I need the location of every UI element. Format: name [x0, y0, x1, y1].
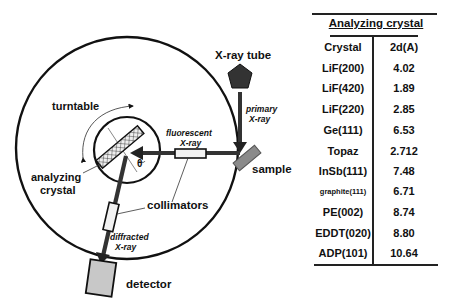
row-2-crystal: LiF(220) — [316, 103, 370, 115]
xray-tube — [228, 64, 252, 88]
row-0-crystal: LiF(200) — [316, 62, 370, 74]
row-8-2d: 8.80 — [378, 227, 430, 239]
row-9-2d: 10.64 — [378, 247, 430, 259]
collimator-diffracted — [103, 202, 119, 232]
collimator-leader-2 — [117, 208, 145, 214]
row-8-crystal: EDDT(020) — [314, 227, 372, 239]
row-5-crystal: InSb(111) — [316, 165, 370, 177]
row-9-crystal: ADP(101) — [316, 247, 370, 259]
row-7-2d: 8.74 — [378, 206, 430, 218]
diffracted-xray-label-2: X-ray — [114, 242, 138, 252]
theta-label: θ — [137, 158, 142, 169]
column-header-crystal: Crystal — [316, 41, 370, 53]
fluorescent-xray-label-2: X-ray — [179, 138, 203, 148]
table-top-rule — [312, 13, 437, 15]
table-column-divider — [372, 36, 374, 265]
xrf-spectrometer-diagram: θ X-ray tube primary X-ray turntable flu… — [0, 0, 300, 304]
row-3-crystal: Ge(111) — [316, 124, 370, 136]
row-4-crystal: Topaz — [316, 145, 370, 157]
row-6-crystal: graphite(111) — [316, 187, 370, 196]
collimator-fluorescent — [175, 149, 206, 158]
xray-tube-label: X-ray tube — [215, 49, 271, 61]
detector — [86, 259, 116, 296]
row-2-2d: 2.85 — [378, 103, 430, 115]
row-3-2d: 6.53 — [378, 124, 430, 136]
diffracted-xray-label-1: diffracted — [110, 232, 149, 242]
fluorescent-xray-label-1: fluorescent — [166, 128, 213, 138]
row-0-2d: 4.02 — [378, 62, 430, 74]
analyzing-crystal-label-1: analyzing — [31, 171, 81, 183]
table-bottom-rule — [314, 264, 438, 266]
row-4-2d: 2.712 — [378, 145, 430, 157]
table-header-rule — [330, 35, 418, 37]
sample-label: sample — [252, 163, 292, 175]
analyzing-crystal-label-2: crystal — [40, 184, 75, 196]
row-5-2d: 7.48 — [378, 165, 430, 177]
collimators-label: collimators — [147, 199, 208, 211]
row-1-crystal: LiF(420) — [316, 82, 370, 94]
turntable-label: turntable — [52, 100, 99, 112]
row-7-crystal: PE(002) — [316, 206, 370, 218]
primary-xray-label-2: X-ray — [248, 114, 272, 124]
detector-label: detector — [126, 278, 172, 290]
column-header-2d: 2d(A) — [378, 41, 430, 53]
row-1-2d: 1.89 — [378, 82, 430, 94]
collimator-leader-1 — [172, 158, 188, 202]
analyzing-crystal-leader — [83, 164, 101, 173]
row-6-2d: 6.71 — [378, 185, 430, 197]
primary-xray-label-1: primary — [245, 104, 278, 114]
table-title: Analyzing crystal — [314, 17, 438, 29]
turntable-circle — [94, 117, 160, 183]
